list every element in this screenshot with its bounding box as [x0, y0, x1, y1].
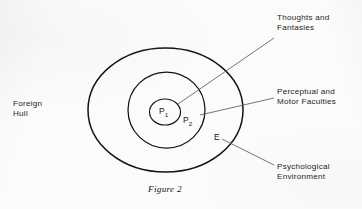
label-perceptual-and-motor-faculties: Perceptual and Motor Faculties [277, 87, 336, 108]
figure-caption: Figure 2 [0, 184, 330, 194]
leader-psych-env [222, 139, 274, 165]
label-thoughts-and-fantasies: Thoughts and Fantasies [277, 13, 330, 34]
leader-thoughts [178, 38, 274, 104]
marker-e: E [214, 132, 220, 142]
marker-p2-subscript: 2 [189, 120, 192, 127]
leader-perceptual [200, 98, 274, 115]
figure-page: Foreign Hull Thoughts and Fantasies Perc… [0, 0, 362, 209]
label-psychological-environment: Psychological Environment [277, 162, 330, 183]
marker-p1-subscript: 1 [165, 111, 168, 118]
label-foreign-hull: Foreign Hull [13, 99, 42, 120]
marker-p2: P2 [183, 115, 192, 127]
marker-p1: P1 [159, 106, 168, 118]
